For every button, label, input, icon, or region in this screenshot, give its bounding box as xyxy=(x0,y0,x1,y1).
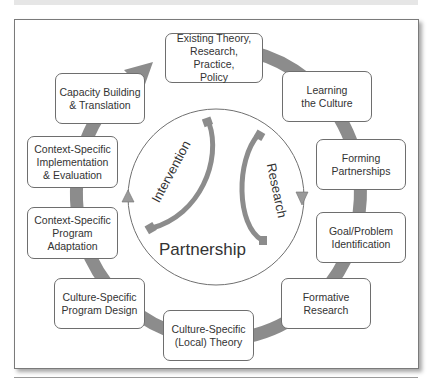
step-context-specific-implementation: Context-Specific Implementation & Evalua… xyxy=(27,136,118,188)
step-forming-partnerships: Forming Partnerships xyxy=(316,139,406,190)
step-learning-culture: Learning the Culture xyxy=(282,71,372,122)
step-capacity-building: Capacity Building & Translation xyxy=(55,73,145,124)
step-formative-research: Formative Research xyxy=(281,278,371,329)
step-context-specific-adaptation: Context-Specific Program Adaptation xyxy=(27,207,118,259)
step-existing-theory: Existing Theory, Research, Practice, Pol… xyxy=(165,33,263,83)
partnership-title: Partnership xyxy=(159,240,246,260)
step-culture-specific-theory: Culture-Specific (Local) Theory xyxy=(163,310,254,361)
research-arc-cap-bottom xyxy=(259,236,267,245)
step-culture-specific-design: Culture-Specific Program Design xyxy=(54,278,145,329)
step-goal-problem: Goal/Problem Identification xyxy=(316,212,406,263)
